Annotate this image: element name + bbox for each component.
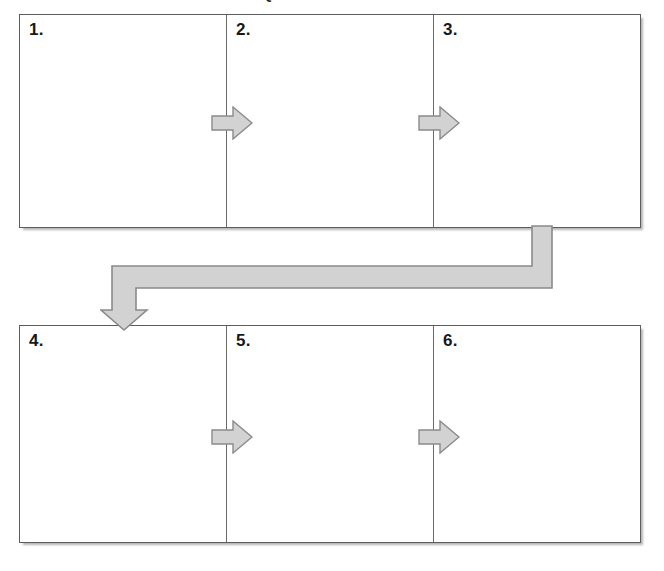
sequence-box-2[interactable]: 2. <box>227 15 434 227</box>
sequence-box-3-number: 3. <box>443 20 458 40</box>
sequence-box-6-number: 6. <box>443 331 458 351</box>
sequence-box-4-number: 4. <box>29 331 44 351</box>
sequence-box-3[interactable]: 3. <box>434 15 640 227</box>
sequence-box-4[interactable]: 4. <box>20 326 227 542</box>
sequence-box-6[interactable]: 6. <box>434 326 640 542</box>
sequence-box-5[interactable]: 5. <box>227 326 434 542</box>
sequence-box-2-number: 2. <box>236 20 251 40</box>
page-title: SEQUENCE OF EVENTS <box>0 0 664 3</box>
sequence-box-1[interactable]: 1. <box>20 15 227 227</box>
sequence-box-1-number: 1. <box>29 20 44 40</box>
sequence-row-bottom: 4. 5. 6. <box>19 325 641 543</box>
sequence-row-top: 1. 2. 3. <box>19 14 641 228</box>
sequence-box-5-number: 5. <box>236 331 251 351</box>
elbow-down-left-arrow-icon <box>100 222 565 334</box>
